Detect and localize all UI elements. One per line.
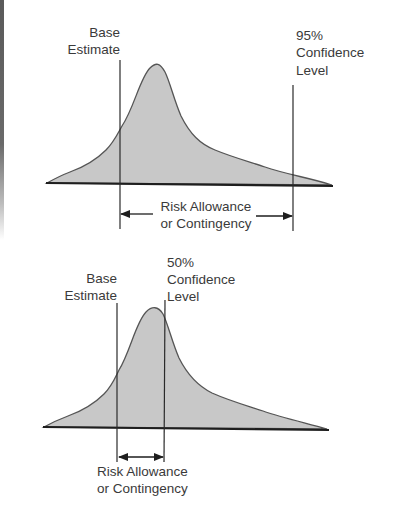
allowance-label-line1: Risk Allowance	[97, 464, 188, 479]
distribution-curve	[44, 308, 327, 429]
base-estimate-label-line1: Base	[89, 25, 120, 40]
allowance-label-line2: or Contingency	[97, 481, 188, 496]
base-estimate-label-line2: Estimate	[67, 42, 120, 57]
top-panel: Base Estimate 95% Confidence Level Risk …	[46, 25, 364, 231]
confidence-label-line1: 50%	[167, 255, 194, 270]
confidence-label-line3: Level	[296, 63, 328, 78]
confidence-label-line2: Confidence	[296, 45, 364, 60]
confidence-label-line1: 95%	[296, 28, 323, 43]
base-estimate-label-line2: Estimate	[64, 288, 117, 303]
confidence-label-line2: Confidence	[167, 272, 235, 287]
risk-allowance-diagram: Base Estimate 95% Confidence Level Risk …	[0, 0, 401, 515]
distribution-curve	[47, 64, 332, 185]
base-estimate-label-line1: Base	[86, 271, 117, 286]
bottom-panel: Base Estimate 50% Confidence Level Risk …	[43, 255, 329, 496]
allowance-label-line1: Risk Allowance	[161, 199, 252, 214]
allowance-label-line2: or Contingency	[161, 216, 252, 231]
confidence-label-line3: Level	[167, 289, 199, 304]
